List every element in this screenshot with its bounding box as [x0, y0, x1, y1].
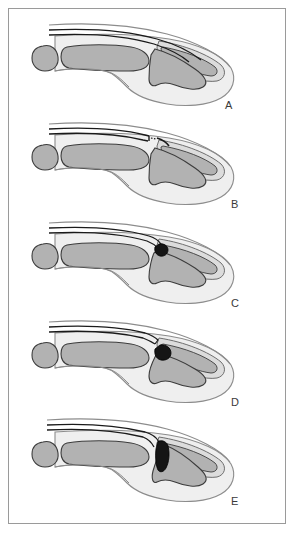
panel-d-illustration: [9, 310, 287, 414]
panel-d: D: [9, 310, 287, 414]
panel-label-a: A: [225, 99, 233, 111]
panel-label-d: D: [231, 396, 239, 408]
panel-e: E: [9, 409, 287, 513]
panel-label-c: C: [231, 297, 239, 309]
panel-label-b: B: [231, 198, 239, 210]
middle-phalanx-head: [32, 244, 58, 269]
panel-e-illustration: [9, 409, 287, 513]
panel-label-e: E: [231, 495, 239, 507]
panel-b: B: [9, 112, 287, 216]
middle-phalanx-head: [32, 442, 58, 467]
middle-phalanx-shaft: [61, 243, 149, 269]
panel-a-illustration: [9, 13, 287, 117]
avulsion-fragment-small: [155, 244, 168, 256]
panel-a: A: [9, 13, 287, 117]
middle-phalanx-head: [32, 343, 58, 368]
middle-phalanx-shaft: [61, 342, 149, 368]
panel-c: C: [9, 211, 287, 315]
middle-phalanx-head: [32, 46, 58, 71]
avulsion-fragment-displaced: [155, 345, 171, 360]
figure-frame: A B: [8, 8, 286, 524]
middle-phalanx-head: [32, 145, 58, 170]
middle-phalanx-shaft: [61, 441, 149, 467]
middle-phalanx-shaft: [61, 144, 149, 170]
panel-b-illustration: [9, 112, 287, 216]
panel-c-illustration: [9, 211, 287, 315]
middle-phalanx-shaft: [61, 45, 149, 71]
